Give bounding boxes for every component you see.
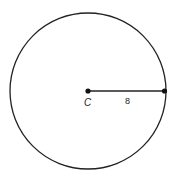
radius-label: 8 [125, 96, 130, 106]
center-point [85, 88, 90, 93]
radius-endpoint [162, 88, 167, 93]
circle-diagram: C 8 [0, 0, 181, 180]
center-label: C [84, 97, 92, 108]
